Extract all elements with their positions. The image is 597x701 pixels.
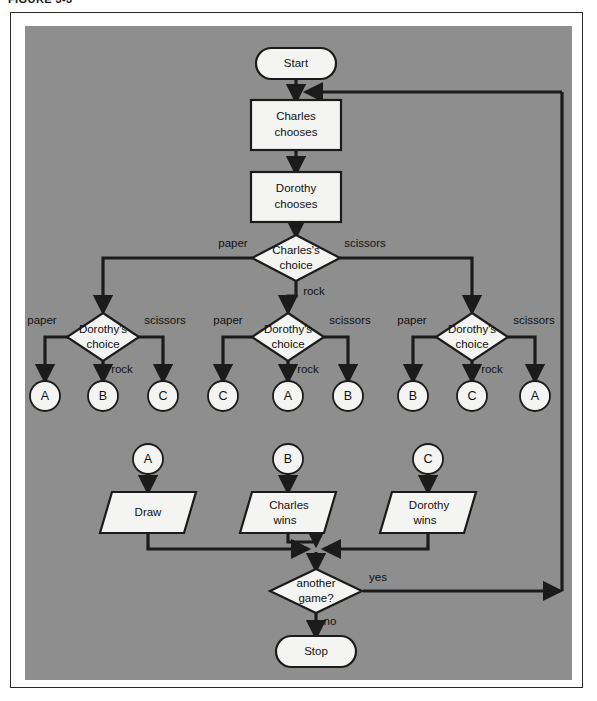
edge-label-right-paper: paper [397,314,427,326]
process-charles-chooses-line1: Charles [276,110,316,122]
process-dorothy-chooses-line2: chooses [275,198,318,210]
decision-dorothy-right-line1: Dorothy's [448,323,496,335]
output-charles-wins-line1: Charles [269,499,309,511]
output-charles-wins[interactable]: Charles wins [240,492,336,533]
decision-another-game[interactable]: another game? [270,569,362,613]
decision-dorothy-choice-left[interactable]: Dorothy's choice [67,313,139,361]
edge-charles-scissors [339,258,472,312]
output-draw[interactable]: Draw [100,492,196,533]
edge-label-left-scissors: scissors [144,314,186,326]
output-dorothy-wins-line1: Dorothy [409,499,450,511]
decision-dorothy-choice-mid[interactable]: Dorothy's choice [252,313,324,361]
edge-charles-paper [103,258,253,312]
connector-out-6[interactable]: B [333,381,363,411]
edge-right-paper [413,337,437,381]
process-dorothy-chooses-line1: Dorothy [276,182,317,194]
edge-mid-paper [223,337,253,381]
connector-out-9-letter: A [531,389,540,403]
edge-label-charles-scissors: scissors [344,237,386,249]
decision-charles-choice-line2: choice [279,259,312,271]
edge-draw-to-junction [148,533,308,549]
process-dorothy-chooses[interactable]: Dorothy chooses [251,172,341,222]
edge-label-mid-scissors: scissors [329,314,371,326]
edge-label-charles-rock: rock [303,285,325,297]
process-charles-chooses[interactable]: Charles chooses [251,100,341,150]
connector-out-8-letter: C [467,389,476,403]
connector-in-a[interactable]: A [133,444,163,474]
connector-in-c-letter: C [423,452,432,466]
connector-in-b[interactable]: B [273,444,303,474]
edge-label-right-scissors: scissors [513,314,555,326]
edge-label-charles-paper: paper [218,237,248,249]
edge-left-scissors [138,337,163,381]
connector-out-3-letter: C [158,389,167,403]
edge-label-mid-rock: rock [297,363,319,375]
figure-page: FIGURE 3-3 [0,0,597,701]
connector-out-8[interactable]: C [457,381,487,411]
edge-right-scissors [507,337,535,381]
edge-charles-rock [288,281,296,312]
decision-dorothy-mid-line1: Dorothy's [264,323,312,335]
flowchart-svg: Start Stop Charles chooses Dorothy choos… [0,0,597,701]
terminator-start-label: Start [284,57,309,69]
decision-charles-choice-line1: Charles's [272,244,320,256]
edge-charleswins-to-junction [288,533,316,545]
connector-out-7[interactable]: B [398,381,428,411]
edge-label-game-no: no [324,615,337,627]
output-draw-line1: Draw [135,506,163,518]
connector-out-1[interactable]: A [30,381,60,411]
output-dorothy-wins-line2: wins [412,514,436,526]
edge-label-mid-paper: paper [213,314,243,326]
connector-out-4[interactable]: C [208,381,238,411]
connector-out-6-letter: B [344,389,352,403]
decision-dorothy-mid-line2: choice [271,338,304,350]
connector-out-3[interactable]: C [148,381,178,411]
edge-label-left-paper: paper [27,314,57,326]
connector-out-1-letter: A [41,389,50,403]
edge-left-paper [45,337,68,381]
connector-in-a-letter: A [144,452,153,466]
connector-out-2-letter: B [99,389,107,403]
connector-in-c[interactable]: C [413,444,443,474]
connector-out-9[interactable]: A [520,381,550,411]
decision-dorothy-left-line1: Dorothy's [79,323,127,335]
decision-dorothy-left-line2: choice [86,338,119,350]
connector-out-5-letter: A [284,389,293,403]
process-charles-chooses-line2: chooses [275,126,318,138]
connector-out-4-letter: C [218,389,227,403]
decision-dorothy-right-line2: choice [455,338,488,350]
connector-out-7-letter: B [409,389,417,403]
decision-dorothy-choice-right[interactable]: Dorothy's choice [436,313,508,361]
decision-another-game-line1: another [296,577,335,589]
edge-label-right-rock: rock [481,363,503,375]
edge-label-left-rock: rock [111,363,133,375]
edge-dorothywins-to-junction [324,533,428,549]
decision-charles-choice[interactable]: Charles's choice [252,235,340,281]
decision-another-game-line2: game? [298,592,333,604]
output-charles-wins-line2: wins [272,514,296,526]
terminator-stop-label: Stop [304,645,328,657]
edge-label-game-yes: yes [369,571,387,583]
connector-out-2[interactable]: B [88,381,118,411]
flow-lines [45,79,562,637]
output-dorothy-wins[interactable]: Dorothy wins [380,492,476,533]
connector-in-b-letter: B [284,452,292,466]
terminator-stop[interactable]: Stop [276,636,356,667]
terminator-start[interactable]: Start [256,48,336,79]
connector-out-5[interactable]: A [273,381,303,411]
edge-mid-scissors [323,337,348,381]
